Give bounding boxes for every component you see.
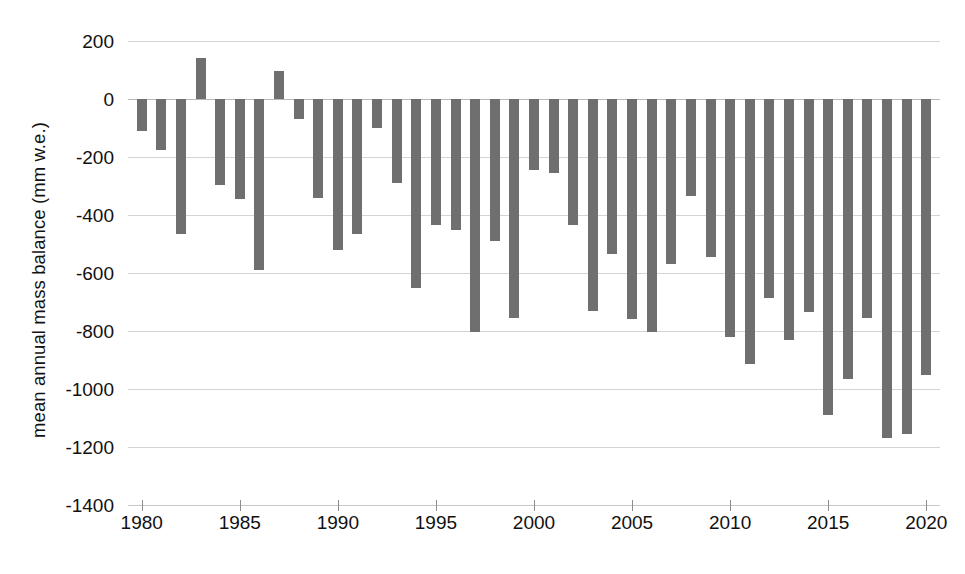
x-axis-tick	[534, 500, 535, 511]
bar	[627, 99, 637, 319]
y-axis-tick-label: -600	[0, 264, 114, 283]
x-axis-tick-label: 2000	[489, 512, 579, 534]
bar	[588, 99, 598, 311]
bar	[274, 71, 284, 99]
bar	[568, 99, 578, 225]
x-axis-tick	[926, 500, 927, 511]
x-axis-tick	[338, 500, 339, 511]
x-axis-tick-label: 1995	[391, 512, 481, 534]
bar	[196, 58, 206, 99]
bar	[823, 99, 833, 415]
y-axis-tick-label: -400	[0, 206, 114, 225]
bar	[352, 99, 362, 234]
bar	[902, 99, 912, 434]
gridline	[128, 331, 940, 332]
x-axis-tick-label: 2010	[685, 512, 775, 534]
y-axis-tick-label: 0	[0, 90, 114, 109]
x-axis-tick-label: 1985	[195, 512, 285, 534]
gridline	[128, 41, 940, 42]
x-axis-tick	[240, 500, 241, 511]
bar	[529, 99, 539, 170]
bar	[215, 99, 225, 185]
y-axis-tick-label: -200	[0, 148, 114, 167]
bar	[392, 99, 402, 183]
bar-chart: mean annual mass balance (mm w.e.) 2000-…	[0, 0, 965, 574]
bar	[451, 99, 461, 230]
bar	[686, 99, 696, 196]
x-axis-tick	[632, 500, 633, 511]
bar	[235, 99, 245, 199]
bar	[372, 99, 382, 128]
x-axis-tick	[436, 500, 437, 511]
bar	[176, 99, 186, 234]
bar	[725, 99, 735, 337]
x-axis-tick-label: 1990	[293, 512, 383, 534]
bar	[431, 99, 441, 225]
x-axis-tick-label: 2015	[783, 512, 873, 534]
bar	[137, 99, 147, 131]
bar	[764, 99, 774, 298]
bar	[882, 99, 892, 438]
x-axis-tick	[142, 500, 143, 511]
bar	[509, 99, 519, 318]
bar	[862, 99, 872, 318]
bar	[745, 99, 755, 364]
gridline	[128, 273, 940, 274]
bar	[470, 99, 480, 332]
bar	[254, 99, 264, 270]
y-axis-tick-label: -1000	[0, 380, 114, 399]
x-axis-tick	[828, 500, 829, 511]
plot-area	[128, 41, 940, 505]
bar	[607, 99, 617, 254]
gridline	[128, 215, 940, 216]
x-axis-tick-label: 1980	[97, 512, 187, 534]
x-axis-tick-label: 2020	[881, 512, 965, 534]
bar	[843, 99, 853, 379]
bar	[549, 99, 559, 173]
bar	[784, 99, 794, 340]
bar	[294, 99, 304, 119]
bar	[647, 99, 657, 332]
bar	[333, 99, 343, 250]
bar	[313, 99, 323, 198]
bar	[411, 99, 421, 288]
y-axis-tick-label: -1200	[0, 438, 114, 457]
gridline	[128, 389, 940, 390]
bar	[706, 99, 716, 257]
bar	[666, 99, 676, 264]
x-axis-tick	[730, 500, 731, 511]
gridline	[128, 447, 940, 448]
bar	[921, 99, 931, 375]
x-axis-tick-label: 2005	[587, 512, 677, 534]
y-axis-tick-label: -800	[0, 322, 114, 341]
bar	[156, 99, 166, 150]
bar	[490, 99, 500, 241]
y-axis-tick-label: 200	[0, 32, 114, 51]
bar	[804, 99, 814, 312]
